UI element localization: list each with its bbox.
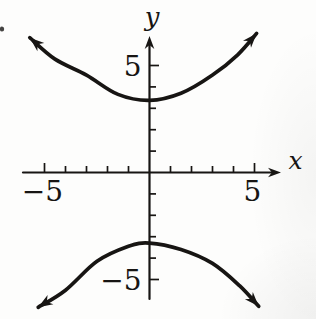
- x-axis-label: x: [288, 146, 302, 175]
- stray-ink-mark: [0, 26, 4, 31]
- y-tick-label: −5: [100, 264, 141, 297]
- y-tick-label: 5: [124, 50, 142, 83]
- hyperbola-plot: −555−5xy: [0, 0, 316, 319]
- y-axis-label: y: [144, 2, 160, 32]
- hyperbola-figure: −555−5xy: [0, 0, 316, 319]
- x-tick-label: 5: [244, 175, 262, 208]
- upper-branch-curve: [30, 33, 257, 100]
- x-tick-label: −5: [22, 175, 63, 208]
